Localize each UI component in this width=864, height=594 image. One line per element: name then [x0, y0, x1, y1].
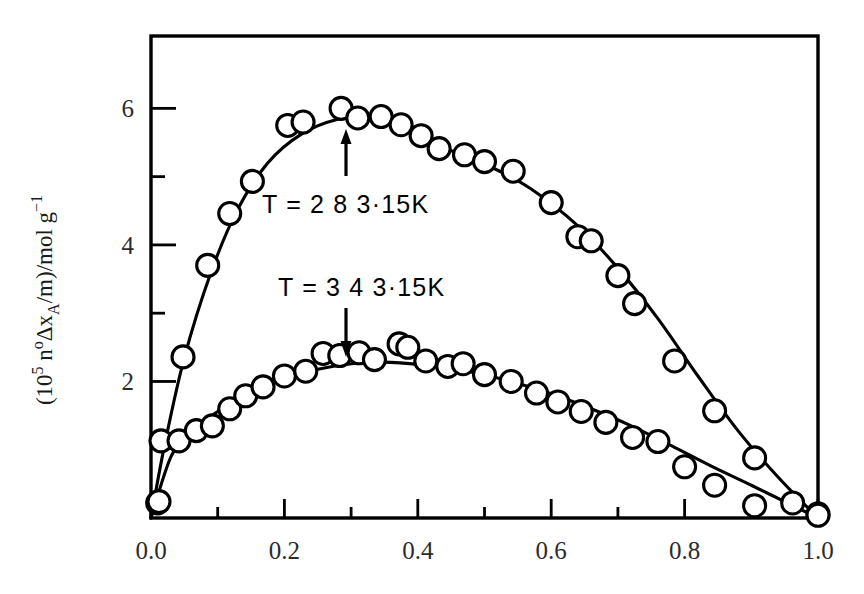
data-point-marker: [363, 349, 385, 371]
data-point-marker: [148, 491, 170, 513]
data-point-marker: [540, 192, 562, 214]
data-point-marker: [570, 401, 592, 423]
data-point-marker: [219, 203, 241, 225]
data-point-marker: [474, 364, 496, 386]
y-label-per-mol: /mol: [32, 229, 57, 271]
x-tick-label: 1.0: [802, 537, 833, 564]
data-point-marker: [347, 107, 369, 129]
data-point-marker: [607, 265, 629, 287]
x-tick-label: 0.2: [269, 537, 300, 564]
y-label-x-subscript: A: [45, 303, 62, 315]
data-point-marker: [782, 492, 804, 514]
figure-container: 0.00.20.40.60.81.0 246 T = 2 8 3·15K T =…: [0, 0, 864, 594]
y-label-delta-x: Δx: [32, 314, 57, 341]
data-point-marker: [241, 170, 263, 192]
data-point-marker: [595, 411, 617, 433]
data-point-marker: [647, 431, 669, 453]
data-point-marker: [526, 382, 548, 404]
y-label-g: g: [32, 211, 57, 223]
data-point-marker: [273, 365, 295, 387]
chart-svg: 0.00.20.40.60.81.0 246 T = 2 8 3·15K T =…: [0, 0, 864, 594]
data-point-marker: [201, 415, 223, 437]
y-label-open-paren: (: [32, 397, 57, 405]
data-point-marker: [502, 160, 524, 182]
data-point-marker: [704, 474, 726, 496]
y-tick-label: 4: [122, 232, 135, 259]
y-label-ten-exponent: 5: [29, 366, 46, 374]
data-point-marker: [807, 504, 829, 526]
y-tick-label: 2: [122, 368, 135, 395]
data-point-marker: [292, 111, 314, 133]
x-tick-label: 0.0: [135, 537, 166, 564]
data-point-marker: [744, 495, 766, 517]
y-label-g-exponent: −1: [28, 195, 45, 212]
data-point-marker: [580, 230, 602, 252]
data-point-marker: [704, 400, 726, 422]
y-tick-label: 6: [122, 95, 135, 122]
data-point-marker: [547, 391, 569, 413]
x-tick-label: 0.8: [669, 537, 700, 564]
data-point-marker: [622, 426, 644, 448]
data-point-marker: [452, 353, 474, 375]
data-point-marker: [415, 350, 437, 372]
data-point-marker: [624, 293, 646, 315]
data-point-marker: [474, 151, 496, 173]
x-tick-label: 0.4: [402, 537, 434, 564]
lower-callout-label: T = 3 4 3·15K: [278, 273, 445, 301]
y-label-ten: 10: [32, 374, 57, 397]
data-point-marker: [252, 376, 274, 398]
data-point-marker: [390, 114, 412, 136]
data-point-marker: [500, 370, 522, 392]
data-point-marker: [664, 350, 686, 372]
data-point-marker: [197, 254, 219, 276]
data-point-marker: [674, 456, 696, 478]
x-tick-label: 0.6: [536, 537, 567, 564]
y-label-n: n: [32, 349, 57, 361]
data-point-marker: [428, 138, 450, 160]
upper-callout-label: T = 2 8 3·15K: [262, 190, 429, 218]
data-point-marker: [172, 346, 194, 368]
y-label-n-exponent: o: [29, 341, 46, 349]
y-label-per-m: /m): [32, 271, 57, 303]
data-point-marker: [744, 447, 766, 469]
data-point-marker: [295, 360, 317, 382]
